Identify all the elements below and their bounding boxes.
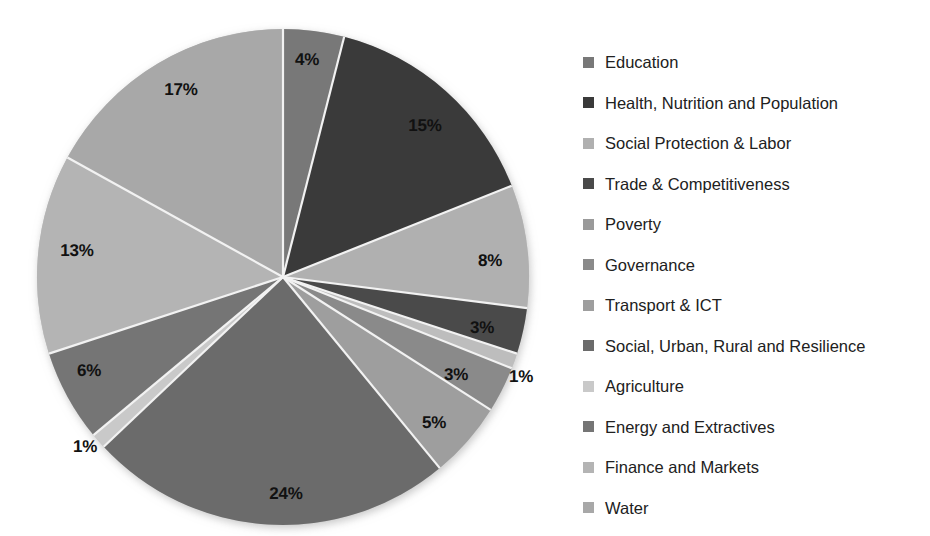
legend-item-label: Education xyxy=(605,54,678,71)
slice-data-label: 15% xyxy=(408,116,441,136)
legend-item-label: Energy and Extractives xyxy=(605,419,775,436)
legend-item-label: Social, Urban, Rural and Resilience xyxy=(605,338,865,355)
slice-data-label: 5% xyxy=(422,413,446,433)
slice-data-label: 3% xyxy=(470,318,494,338)
legend-swatch-icon xyxy=(583,462,594,473)
legend-swatch-icon xyxy=(583,421,594,432)
legend-item[interactable]: Health, Nutrition and Population xyxy=(583,83,923,124)
legend-item[interactable]: Poverty xyxy=(583,204,923,245)
legend-item-label: Agriculture xyxy=(605,378,684,395)
legend-swatch-icon xyxy=(583,138,594,149)
legend-item[interactable]: Trade & Competitiveness xyxy=(583,164,923,205)
legend-item-label: Finance and Markets xyxy=(605,459,759,476)
legend-item[interactable]: Transport & ICT xyxy=(583,285,923,326)
legend-item[interactable]: Social, Urban, Rural and Resilience xyxy=(583,326,923,367)
legend-swatch-icon xyxy=(583,57,594,68)
legend-item-label: Social Protection & Labor xyxy=(605,135,791,152)
legend-item[interactable]: Energy and Extractives xyxy=(583,407,923,448)
legend: EducationHealth, Nutrition and Populatio… xyxy=(583,42,923,528)
legend-item-label: Governance xyxy=(605,257,695,274)
slice-data-label: 13% xyxy=(60,241,93,261)
legend-item-label: Transport & ICT xyxy=(605,297,722,314)
pie-plot-area: 4%15%8%3%1%3%5%24%1%6%13%17% xyxy=(0,0,570,536)
slice-data-label: 8% xyxy=(478,251,502,271)
legend-swatch-icon xyxy=(583,97,594,108)
legend-item[interactable]: Finance and Markets xyxy=(583,447,923,488)
slice-data-label: 4% xyxy=(295,50,319,70)
legend-item-label: Health, Nutrition and Population xyxy=(605,95,838,112)
legend-swatch-icon xyxy=(583,259,594,270)
legend-swatch-icon xyxy=(583,381,594,392)
legend-swatch-icon xyxy=(583,502,594,513)
pie-chart-figure: 4%15%8%3%1%3%5%24%1%6%13%17% EducationHe… xyxy=(0,0,930,536)
legend-item[interactable]: Governance xyxy=(583,245,923,286)
slice-data-label: 1% xyxy=(509,367,533,387)
legend-swatch-icon xyxy=(583,178,594,189)
legend-item[interactable]: Water xyxy=(583,488,923,529)
legend-item[interactable]: Education xyxy=(583,42,923,83)
legend-item-label: Trade & Competitiveness xyxy=(605,176,790,193)
legend-item-label: Water xyxy=(605,500,648,517)
legend-swatch-icon xyxy=(583,219,594,230)
legend-item[interactable]: Social Protection & Labor xyxy=(583,123,923,164)
slice-data-label: 1% xyxy=(73,437,97,457)
legend-swatch-icon xyxy=(583,300,594,311)
slice-data-label: 17% xyxy=(164,80,197,100)
legend-item[interactable]: Agriculture xyxy=(583,366,923,407)
slice-data-label: 24% xyxy=(269,484,302,504)
legend-swatch-icon xyxy=(583,340,594,351)
slice-data-label: 3% xyxy=(444,365,468,385)
legend-item-label: Poverty xyxy=(605,216,661,233)
slice-data-label: 6% xyxy=(77,361,101,381)
